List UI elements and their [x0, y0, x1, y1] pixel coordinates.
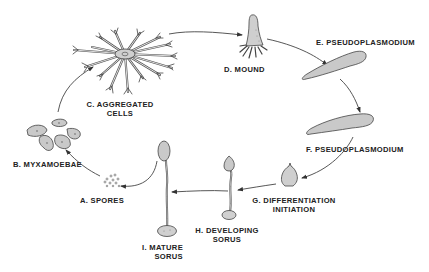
pseudoplasmodium-e-drawing: [302, 51, 366, 79]
arrow-g-to-h: [238, 184, 276, 190]
label-mature-line2: SORUS: [130, 252, 183, 261]
label-mound: D. MOUND: [224, 65, 265, 74]
arrow-aggregated-to-mound: [169, 32, 242, 35]
label-mature-sorus: I. MATURE SORUS: [130, 243, 183, 261]
label-differentiation-initiation: G. DIFFERENTIATION INITIATION: [244, 196, 344, 214]
label-differentiation-line1: G. DIFFERENTIATION: [244, 196, 344, 205]
label-aggregated-cells: C. AGGREGATED CELLS: [80, 100, 160, 118]
mature-sorus-drawing: [158, 141, 177, 237]
arrow-i-to-spores: [121, 161, 157, 186]
aggregated-cells-drawing: [73, 28, 177, 94]
label-differentiation-line2: INITIATION: [244, 205, 344, 214]
label-pseudoplasmodium-f: F. PSEUDOPLASMODIUM: [306, 145, 404, 154]
label-aggregated-line1: C. AGGREGATED: [80, 100, 160, 109]
label-developing-line2: SORUS: [187, 235, 267, 244]
differentiation-drawing: [281, 163, 297, 186]
spores-drawing: [104, 174, 120, 187]
arrow-e-to-f: [340, 79, 360, 112]
arrow-f-to-g: [302, 137, 353, 178]
pseudoplasmodium-f-drawing: [307, 114, 374, 135]
label-pseudoplasmodium-e: E. PSEUDOPLASMODIUM: [316, 38, 415, 47]
life-cycle-diagram: C. AGGREGATED CELLS D. MOUND E. PSEUDOPL…: [0, 0, 429, 272]
myxamoebae-drawing: [27, 119, 80, 150]
label-spores: A. SPORES: [80, 196, 124, 205]
developing-sorus-drawing: [222, 156, 236, 220]
label-developing-sorus: H. DEVELOPING SORUS: [187, 226, 267, 244]
label-developing-line1: H. DEVELOPING: [187, 226, 267, 235]
label-aggregated-line2: CELLS: [80, 109, 160, 118]
label-myxamoebae: B. MYXAMOEBAE: [13, 160, 82, 169]
label-mature-line1: I. MATURE: [130, 243, 183, 252]
mound-drawing: [240, 15, 267, 58]
arrow-h-to-i: [172, 191, 228, 192]
